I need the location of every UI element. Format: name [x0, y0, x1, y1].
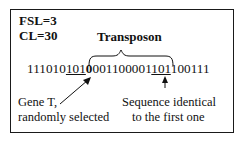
- gene-t-label-line2: randomly selected: [18, 110, 109, 125]
- identical-label-line2: to the first one: [132, 110, 205, 125]
- gene-t-label-line1: Gene T,: [18, 95, 57, 110]
- transposon-brace: [89, 50, 173, 66]
- gene-t-arrow-line: [60, 80, 88, 104]
- identical-arrowhead: [162, 76, 168, 83]
- identical-label-line1: Sequence identical: [122, 95, 216, 110]
